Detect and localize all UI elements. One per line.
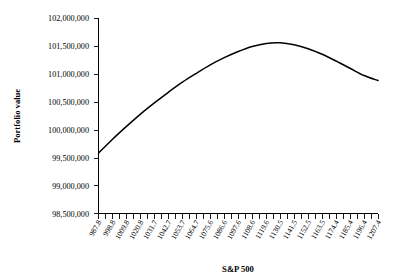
portfolio-value-curve bbox=[99, 43, 379, 153]
x-tick-labels: 987.8998.81009.81020.81031.71042.71053.7… bbox=[87, 218, 383, 241]
chart-container: Portfolio value 102,000,000 101,500,000 … bbox=[0, 0, 404, 278]
x-tick-label: 987.8 bbox=[87, 218, 103, 237]
x-tick-label: 1207.4 bbox=[365, 218, 383, 241]
y-tick-label: 102,000,000 bbox=[48, 14, 89, 23]
x-tick-marks bbox=[99, 214, 379, 219]
y-tick-label: 100,500,000 bbox=[48, 98, 89, 107]
y-tick-label: 99,500,000 bbox=[52, 154, 89, 163]
y-tick-marks bbox=[94, 19, 99, 214]
portfolio-value-chart: Portfolio value 102,000,000 101,500,000 … bbox=[0, 0, 404, 278]
y-axis-title: Portfolio value bbox=[12, 89, 22, 143]
y-tick-label: 100,000,000 bbox=[48, 126, 89, 135]
y-tick-label: 98,500,000 bbox=[52, 210, 89, 219]
y-tick-label: 101,000,000 bbox=[48, 70, 89, 79]
y-tick-label: 99,000,000 bbox=[52, 182, 89, 191]
x-axis-title: S&P 500 bbox=[222, 264, 254, 274]
y-tick-label: 101,500,000 bbox=[48, 42, 89, 51]
